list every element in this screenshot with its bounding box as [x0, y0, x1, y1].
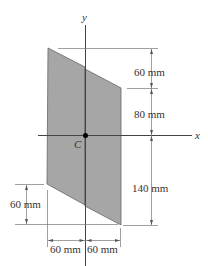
arrow-icon	[150, 49, 153, 54]
arrow-icon	[150, 130, 153, 135]
arrow-icon	[115, 239, 120, 242]
arrow-icon	[150, 83, 153, 88]
shape-left-half	[47, 48, 85, 205]
arrow-icon	[80, 239, 85, 242]
arrow-icon	[150, 220, 153, 225]
arrow-icon	[87, 239, 92, 242]
centroid-label: C	[74, 138, 82, 150]
diagram-canvas: y x C 60 mm 80 mm 140 mm 60 mm 60 mm 60 …	[0, 0, 208, 266]
dim-label-bottom-left: 60 mm	[50, 243, 81, 255]
dim-label-left-bottom: 60 mm	[10, 198, 41, 210]
arrow-icon	[25, 185, 28, 190]
arrow-icon	[150, 136, 153, 141]
x-axis-label: x	[194, 129, 200, 141]
arrow-icon	[150, 89, 153, 94]
arrow-icon	[25, 219, 28, 224]
dim-label-bottom-right: 60 mm	[87, 243, 118, 255]
centroid-point	[83, 133, 88, 138]
dim-label-right-top: 60 mm	[134, 66, 165, 78]
arrow-icon	[48, 239, 53, 242]
shape-right-half	[85, 69, 121, 225]
dim-label-right-middle: 80 mm	[134, 108, 165, 120]
dim-label-right-bottom: 140 mm	[132, 182, 169, 194]
y-axis-label: y	[81, 11, 87, 23]
